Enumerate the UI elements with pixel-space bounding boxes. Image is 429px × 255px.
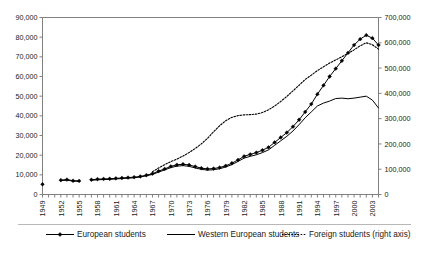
- x-tick-label: 2000: [350, 201, 359, 217]
- legend-label: European students: [77, 230, 146, 239]
- y2-tick-label: 500,000: [385, 64, 411, 73]
- x-tick-label: 1979: [222, 201, 231, 217]
- x-tick-label: 1970: [167, 201, 176, 217]
- x-tick-label: 1988: [277, 201, 286, 217]
- y2-tick-label: 600,000: [385, 38, 411, 47]
- y-tick-label: 30,000: [16, 131, 38, 140]
- chart-container: 010,00020,00030,00040,00050,00060,00070,…: [0, 0, 429, 255]
- y-tick-label: 20,000: [16, 151, 38, 160]
- y2-tick-label: 700,000: [385, 13, 411, 22]
- y2-tick-label: 400,000: [385, 89, 411, 98]
- x-tick-label: 1967: [148, 201, 157, 217]
- x-tick-label: 1958: [93, 201, 102, 217]
- x-tick-label: 1976: [203, 201, 212, 217]
- x-tick-label: 1964: [130, 201, 139, 217]
- y2-tick-label: 100,000: [385, 165, 411, 174]
- y-tick-label: 60,000: [16, 72, 38, 81]
- y2-tick-label: 200,000: [385, 140, 411, 149]
- y2-tick-label: 0: [385, 190, 389, 199]
- x-tick-label: 1982: [240, 201, 249, 217]
- x-tick-label: 1955: [75, 201, 84, 217]
- x-tick-label: 1994: [313, 201, 322, 217]
- y-tick-label: 80,000: [16, 33, 38, 42]
- x-tick-label: 1961: [112, 201, 121, 217]
- y-tick-label: 70,000: [16, 52, 38, 61]
- y-tick-label: 0: [34, 190, 38, 199]
- x-tick-label: 1952: [57, 201, 66, 217]
- y2-tick-label: 300,000: [385, 114, 411, 123]
- legend-label: Western European students: [198, 230, 299, 239]
- y-tick-label: 50,000: [16, 92, 38, 101]
- legend-label: Foreign students (right axis): [309, 230, 411, 239]
- x-tick-label: 2003: [368, 201, 377, 217]
- x-tick-label: 1985: [258, 201, 267, 217]
- y-tick-label: 40,000: [16, 111, 38, 120]
- x-tick-label: 1949: [38, 201, 47, 217]
- y-tick-label: 10,000: [16, 170, 38, 179]
- line-chart: 010,00020,00030,00040,00050,00060,00070,…: [0, 0, 429, 255]
- x-tick-label: 1991: [295, 201, 304, 217]
- y-tick-label: 90,000: [16, 13, 38, 22]
- x-tick-label: 1997: [332, 201, 341, 217]
- x-tick-label: 1973: [185, 201, 194, 217]
